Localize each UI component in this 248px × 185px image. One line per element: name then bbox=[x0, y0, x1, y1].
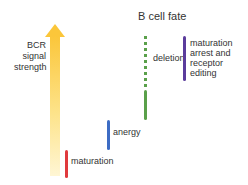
deletion-label: deletion bbox=[153, 53, 185, 63]
deletion-bar bbox=[144, 90, 147, 120]
receptor-editing-label: maturation arrest and receptor editing bbox=[190, 38, 233, 78]
axis-label-line: strength bbox=[14, 62, 46, 73]
diagram-title: B cell fate bbox=[138, 10, 186, 22]
receptor-editing-bar bbox=[183, 36, 186, 81]
label-line: receptor bbox=[190, 58, 233, 68]
maturation-label: maturation bbox=[71, 156, 114, 166]
axis-label: BCR signal strength bbox=[14, 40, 46, 73]
label-line: arrest and bbox=[190, 48, 233, 58]
anergy-label: anergy bbox=[113, 127, 141, 137]
axis-label-line: BCR bbox=[14, 40, 46, 51]
axis-label-line: signal bbox=[14, 51, 46, 62]
label-line: editing bbox=[190, 68, 233, 78]
anergy-bar bbox=[107, 120, 110, 150]
signal-strength-arrow bbox=[50, 36, 60, 176]
deletion-bar-dotted bbox=[144, 36, 147, 90]
label-line: maturation bbox=[190, 38, 233, 48]
maturation-bar bbox=[65, 150, 68, 178]
